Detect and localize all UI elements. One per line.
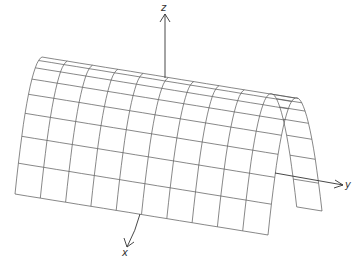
mesh-line <box>15 57 42 194</box>
mesh-line <box>91 69 118 206</box>
mesh-line <box>280 107 305 111</box>
mesh-line <box>287 135 312 139</box>
y-axis-label: y <box>345 180 351 190</box>
mesh-line <box>270 94 297 207</box>
mesh-line <box>192 86 219 223</box>
wireframe-mesh <box>15 57 322 235</box>
mesh-line <box>290 155 315 159</box>
mesh-line <box>116 73 143 210</box>
mesh-line <box>277 99 302 103</box>
mesh-line <box>167 82 194 219</box>
mesh-line <box>217 90 244 227</box>
mesh-line <box>273 94 298 98</box>
mesh-line <box>243 94 270 231</box>
x-axis-label: x <box>122 248 128 258</box>
mesh-line <box>66 65 93 202</box>
z-axis-label: z <box>161 3 166 13</box>
surface-plot <box>0 0 359 269</box>
mesh-line <box>142 78 169 215</box>
mesh-line <box>40 61 67 198</box>
mesh-line <box>297 207 322 211</box>
mesh-line <box>295 98 322 211</box>
y-axis <box>275 173 343 185</box>
mesh-line <box>268 98 295 235</box>
mesh-line <box>283 119 308 123</box>
